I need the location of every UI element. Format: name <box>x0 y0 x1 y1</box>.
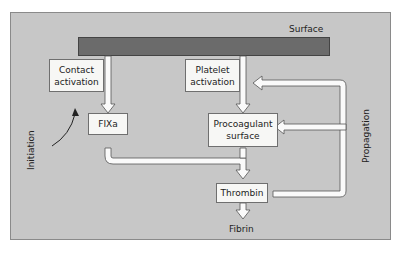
arrow-fixa-to-thrombin <box>105 148 250 179</box>
arrow-procoag-to-thrombin <box>240 148 246 158</box>
arrows-layer <box>0 0 400 262</box>
initiation-arrow-head <box>72 108 79 116</box>
contact-activation-box: Contact activation <box>49 59 104 92</box>
procoagulant-surface-box: Procoagulant surface <box>208 113 278 147</box>
arrow-thrombin-to-fibrin <box>236 203 250 219</box>
propagation-label: Propagation <box>361 109 371 163</box>
initiation-label: Initiation <box>26 130 36 170</box>
arrow-propagation-to-procoag <box>275 120 346 134</box>
fibrin-label: Fibrin <box>229 224 254 234</box>
initiation-curve-arrow <box>52 114 75 146</box>
fixa-box: FIXa <box>88 113 128 135</box>
platelet-activation-box: Platelet activation <box>185 59 240 92</box>
thrombin-box: Thrombin <box>216 183 268 203</box>
